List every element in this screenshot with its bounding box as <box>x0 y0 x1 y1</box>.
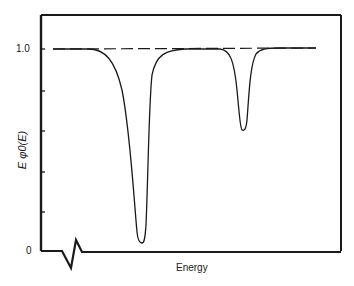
plot-frame <box>41 15 341 268</box>
flux-curve <box>53 48 316 243</box>
y-tick-label-top: 1.0 <box>16 43 30 54</box>
y-axis-label: E φ0(E) <box>16 131 28 169</box>
x-axis-label: Energy <box>176 262 208 273</box>
y-tick-label-zero: 0 <box>26 245 32 256</box>
chart-canvas <box>0 0 354 286</box>
